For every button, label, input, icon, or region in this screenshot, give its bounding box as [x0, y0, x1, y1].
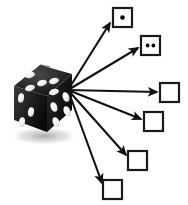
outcome-box-4[interactable] [144, 112, 163, 131]
arrow-to-3 [68, 90, 157, 92]
pip-icon [152, 44, 156, 48]
outcome-box-2[interactable] [141, 36, 160, 55]
arrow-to-4 [68, 90, 141, 119]
outcome-box-3[interactable] [160, 83, 179, 102]
arrow-to-1 [68, 23, 110, 90]
outcome-box-1[interactable] [113, 8, 132, 27]
outcome-box-5[interactable] [128, 151, 147, 170]
arrow-to-2 [68, 48, 138, 90]
outcome-boxes [103, 8, 179, 199]
pip-icon [146, 44, 150, 48]
arrow-to-5 [68, 90, 126, 155]
pip-icon [120, 15, 125, 20]
diagram-canvas: Die roll outcome diagram six-sided die 1… [0, 0, 188, 205]
die-outcomes-diagram [0, 0, 188, 205]
die [14, 65, 72, 132]
outcome-box-6[interactable] [103, 180, 122, 199]
